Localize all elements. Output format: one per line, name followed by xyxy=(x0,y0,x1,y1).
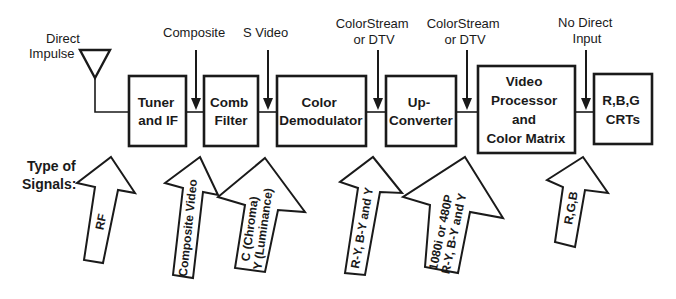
signals-heading: Type of Signals: xyxy=(22,158,80,192)
colorstream-input-label-1: ColorStream or DTV xyxy=(336,16,413,47)
signal-arrow-chroma-luminance: C (Chroma) Y (Luminance) xyxy=(218,158,305,272)
block-video-processor: Video Processor and Color Matrix xyxy=(478,66,575,153)
no-direct-input-arrow xyxy=(581,50,591,110)
signal-arrow-ry-by-y: R-Y, B-Y and Y xyxy=(340,157,402,275)
signal-arrow-composite-video: Composite Video xyxy=(165,157,218,278)
signal-arrow-hd: 1080i or 480P R-Y, B-Y and Y xyxy=(403,157,503,275)
composite-input-arrow xyxy=(191,50,201,110)
signal-arrow-rf: RF xyxy=(77,157,135,263)
signal-arrow-rgb: R,G,B xyxy=(547,157,608,247)
signal-flow-diagram: Direct Impulse Composite S Video ColorSt… xyxy=(0,0,676,299)
block-up-converter: Up- Converter xyxy=(386,76,456,146)
no-direct-input-label: No Direct Input xyxy=(558,15,616,46)
colorstream-input-arrow-2 xyxy=(462,50,472,110)
block-crts: R,B,G CRTs xyxy=(594,74,652,144)
block-tuner: Tuner and IF xyxy=(129,76,186,146)
antenna-icon xyxy=(80,50,128,112)
antenna-label: Direct Impulse xyxy=(29,31,84,61)
block-color-demodulator: Color Demodulator xyxy=(277,76,366,146)
colorstream-input-arrow-1 xyxy=(373,50,383,110)
colorstream-input-label-2: ColorStream or DTV xyxy=(427,16,504,47)
svideo-input-arrow xyxy=(263,50,273,110)
block-comb-filter: Comb Filter xyxy=(204,76,258,146)
svideo-input-label: S Video xyxy=(243,25,288,40)
composite-input-label: Composite xyxy=(163,25,225,40)
